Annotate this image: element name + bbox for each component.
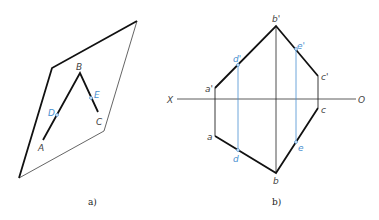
axis-label-o: O: [358, 95, 365, 105]
label-c-prime: c': [321, 72, 328, 82]
label-a: a: [207, 132, 213, 142]
point-d: [237, 149, 240, 152]
projection-diagram: A B C D E a) X O b' a' c' d' e' a b: [0, 0, 379, 220]
axis-label-x: X: [166, 95, 174, 105]
top-view-abc: [215, 108, 318, 173]
plane-edge-thick: [19, 21, 137, 178]
front-view-abc: [215, 26, 318, 88]
caption-a: a): [88, 197, 97, 207]
plane-edge-thin: [19, 21, 137, 178]
label-d: d: [233, 154, 239, 164]
label-D: D: [48, 108, 55, 118]
label-e: e: [298, 143, 304, 153]
point-d: [56, 114, 59, 117]
figure-a: A B C D E a): [19, 21, 137, 207]
label-A: A: [37, 143, 44, 153]
point-e: [90, 97, 93, 100]
label-c: c: [321, 105, 326, 115]
caption-b: b): [272, 197, 281, 207]
label-B: B: [76, 62, 82, 72]
label-e-prime: e': [297, 41, 305, 51]
label-C: C: [96, 117, 103, 127]
line-abc: [43, 73, 98, 140]
point-d-prime: [237, 64, 240, 67]
label-a-prime: a': [205, 84, 213, 94]
label-d-prime: d': [233, 54, 241, 64]
label-E: E: [94, 90, 100, 100]
label-b-prime: b': [272, 14, 280, 24]
figure-b: X O b' a' c' d' e' a b c d e b): [166, 14, 365, 207]
point-e: [295, 141, 298, 144]
label-b: b: [273, 176, 279, 186]
